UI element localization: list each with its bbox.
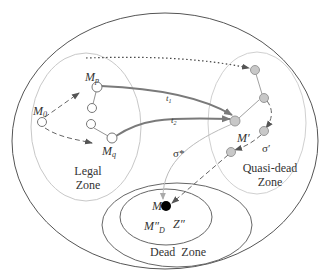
node-dead-m-icon xyxy=(161,201,171,211)
dashed-arrow-m0-up xyxy=(45,93,79,117)
quasi-link-mprime xyxy=(239,100,259,118)
dashed-arrow-m0-down xyxy=(45,128,92,143)
label-mp: Mp xyxy=(84,70,99,85)
label-quasi-zone-1: Quasi-dead xyxy=(243,161,298,175)
reachability-set-ellipse xyxy=(12,13,318,269)
node-quasi-4-icon xyxy=(260,127,269,136)
label-quasi-zone-2: Zone xyxy=(258,175,283,189)
dashed-arrow-to-dead xyxy=(172,155,228,203)
label-m-dead: M xyxy=(151,199,163,213)
node-legal-3-icon xyxy=(87,120,96,129)
label-z: Z″ xyxy=(173,217,186,231)
node-legal-2-icon xyxy=(88,104,97,113)
node-quasi-top-icon xyxy=(251,66,260,75)
node-quasi-5-icon xyxy=(227,148,236,157)
label-m0: M0 xyxy=(32,104,47,119)
legal-link-mp xyxy=(93,92,96,104)
dotted-arrow xyxy=(86,57,249,68)
label-sigma-prime: σ′ xyxy=(262,142,270,154)
quasi-link-top xyxy=(256,74,262,94)
label-m-prime: M′ xyxy=(236,131,250,145)
label-m-dd: M″D xyxy=(143,219,165,235)
sigma-star-curve xyxy=(163,124,232,199)
label-t2: t2 xyxy=(171,115,177,126)
diagram-canvas: M0 Mp Mq t1 t2 Legal Zone M′ σ* σ′ Quasi… xyxy=(0,0,329,277)
node-quasi-2-icon xyxy=(260,94,269,103)
label-legal-zone-1: Legal xyxy=(74,164,102,178)
dead-zone-inner-ellipse xyxy=(120,189,212,245)
label-sigma-star: σ* xyxy=(173,147,184,159)
node-mq-icon xyxy=(107,133,117,143)
node-mprime-icon xyxy=(230,116,240,126)
label-dead-zone: Dead Zone xyxy=(150,245,206,259)
legal-link-mq xyxy=(94,128,108,136)
label-mq: Mq xyxy=(101,144,116,159)
quasi-dashed-arrow-1 xyxy=(266,101,271,128)
label-legal-zone-2: Zone xyxy=(76,178,101,192)
label-t1: t1 xyxy=(166,93,172,104)
